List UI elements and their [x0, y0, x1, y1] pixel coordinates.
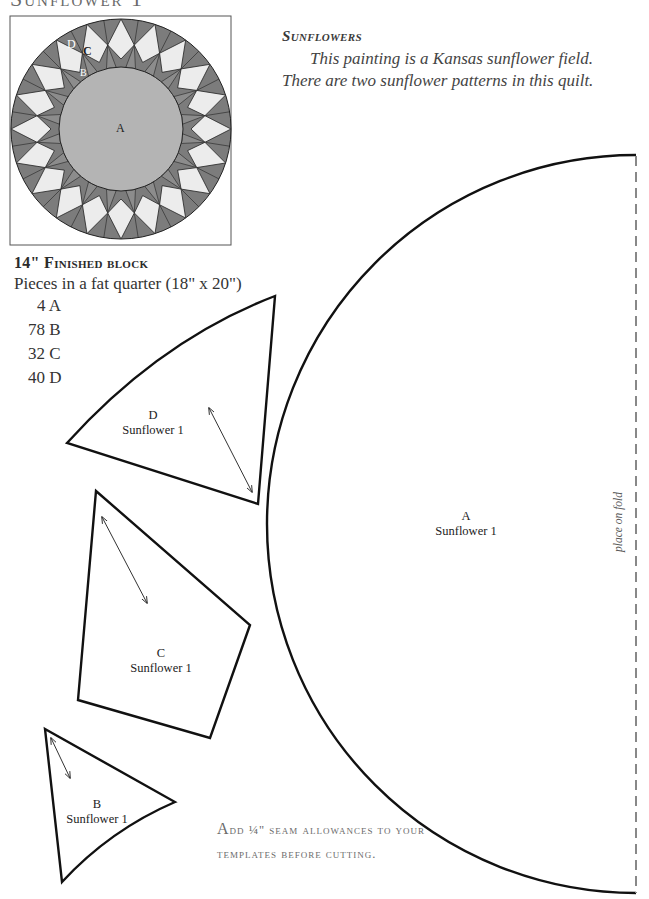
- template-d-label: D Sunflower 1: [122, 408, 183, 438]
- template-c-letter: C: [130, 646, 191, 661]
- template-b-letter: B: [66, 797, 127, 812]
- template-c-label: C Sunflower 1: [130, 646, 191, 676]
- seam-note-line-1: dd ¼" seam allowances to your: [230, 823, 425, 837]
- template-a-letter: A: [435, 509, 496, 524]
- seam-allowance-note: Add ¼" seam allowances to your templates…: [217, 817, 425, 866]
- seam-note-initial: A: [217, 820, 230, 837]
- seam-note-line-2: templates before cutting.: [217, 847, 376, 861]
- template-shapes: [0, 0, 649, 899]
- place-on-fold-label: place on fold: [612, 492, 624, 552]
- grain-arrow-d: [209, 408, 252, 492]
- template-c-outline: [78, 491, 250, 738]
- template-a-label: A Sunflower 1: [435, 509, 496, 539]
- template-d-outline: [67, 296, 275, 504]
- template-b-name: Sunflower 1: [66, 812, 127, 827]
- template-a-name: Sunflower 1: [435, 524, 496, 539]
- template-d-letter: D: [122, 408, 183, 423]
- template-c-name: Sunflower 1: [130, 661, 191, 676]
- template-b-label: B Sunflower 1: [66, 797, 127, 827]
- template-d-name: Sunflower 1: [122, 423, 183, 438]
- grain-arrow-b: [51, 738, 70, 778]
